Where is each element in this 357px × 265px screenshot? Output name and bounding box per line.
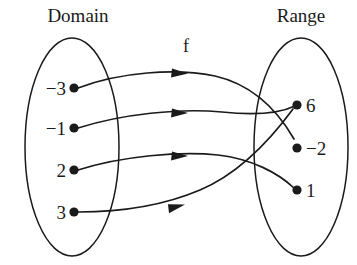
- range-label-2: 1: [306, 180, 316, 201]
- domain-label-3: 3: [57, 202, 67, 223]
- domain-dot-1: [69, 123, 78, 132]
- domain-dot-2: [69, 165, 78, 174]
- range-dot-2: [292, 185, 301, 194]
- arrowhead-3-to-6: [168, 204, 185, 213]
- range-title: Range: [277, 5, 326, 26]
- domain-title: Domain: [47, 5, 109, 26]
- arrowhead-neg3-to-neg2: [171, 68, 188, 77]
- arrow-curve-neg1-to-6: [78, 106, 295, 128]
- domain-oval: [25, 38, 119, 256]
- domain-dot-0: [69, 83, 78, 92]
- domain-label-2: 2: [57, 160, 67, 181]
- range-label-1: −2: [306, 138, 326, 159]
- domain-label-0: −3: [46, 78, 66, 99]
- range-dot-0: [292, 100, 301, 109]
- range-dot-1: [292, 143, 301, 152]
- domain-label-1: −1: [46, 118, 66, 139]
- range-label-0: 6: [306, 95, 316, 116]
- mapping-diagram-figure: Domain Range f −3 −1 2 3 6: [0, 0, 357, 265]
- domain-dot-3: [69, 207, 78, 216]
- mapping-diagram-svg: Domain Range f −3 −1 2 3 6: [0, 0, 357, 265]
- arrowhead-neg1-to-6: [171, 109, 188, 118]
- arrow-curve-2-to-1: [78, 154, 294, 188]
- function-label: f: [183, 36, 189, 56]
- arrow-curve-3-to-6: [78, 109, 293, 212]
